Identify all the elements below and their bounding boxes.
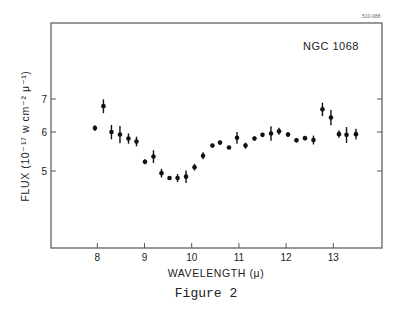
point-marker — [143, 160, 148, 165]
data-point — [252, 136, 257, 141]
data-point — [294, 138, 299, 143]
point-marker — [93, 126, 98, 131]
spectrum-figure: 510-088 8910111213 567 NGC 1068 FLUX (10… — [0, 0, 404, 311]
data-point — [277, 128, 282, 135]
data-point — [303, 136, 308, 141]
point-marker — [243, 143, 248, 148]
x-tick-label: 10 — [186, 252, 198, 263]
x-tick-label: 11 — [234, 252, 245, 263]
data-point — [126, 133, 131, 143]
data-point — [143, 159, 148, 164]
data-point — [175, 174, 180, 182]
point-marker — [286, 132, 291, 137]
chart-title: NGC 1068 — [303, 40, 359, 52]
point-marker — [269, 131, 274, 136]
data-point — [243, 143, 248, 149]
data-point — [260, 133, 265, 138]
y-tick-label: 6 — [41, 127, 47, 138]
data-point — [354, 129, 359, 140]
point-marker — [210, 143, 215, 148]
data-point — [320, 103, 325, 116]
data-point — [167, 176, 172, 181]
x-tick-label: 8 — [95, 252, 101, 263]
point-marker — [303, 136, 308, 141]
data-point — [210, 143, 215, 148]
data-point — [184, 171, 189, 183]
data-point — [109, 125, 114, 139]
y-tick-label: 5 — [41, 166, 47, 177]
data-point — [201, 152, 206, 159]
point-marker — [329, 115, 334, 120]
plate-number: 510-088 — [362, 13, 381, 19]
x-axis-ticks: 8910111213 — [95, 243, 340, 263]
data-point — [269, 126, 274, 140]
point-marker — [277, 129, 282, 134]
point-marker — [252, 136, 257, 141]
point-marker — [294, 138, 299, 143]
point-marker — [118, 132, 123, 137]
data-point — [134, 137, 139, 147]
data-point — [218, 140, 223, 145]
point-marker — [235, 135, 240, 140]
data-point — [311, 136, 316, 145]
x-tick-label: 12 — [281, 252, 293, 263]
point-marker — [175, 176, 180, 181]
data-point — [101, 99, 106, 113]
figure-caption: Figure 2 — [175, 286, 237, 301]
plot-frame — [51, 23, 382, 248]
data-point — [286, 132, 291, 137]
point-marker — [201, 153, 206, 158]
x-tick-label: 9 — [142, 252, 148, 263]
y-axis-ticks: 567 — [41, 94, 382, 177]
data-point — [118, 126, 123, 143]
data-point — [344, 127, 349, 143]
point-marker — [218, 140, 223, 145]
y-tick-label: 7 — [41, 94, 47, 105]
data-point — [337, 131, 342, 138]
point-marker — [354, 132, 359, 137]
point-marker — [167, 176, 172, 181]
point-marker — [101, 104, 106, 109]
point-marker — [260, 133, 265, 138]
point-marker — [344, 133, 349, 138]
x-axis-label: WAVELENGTH (μ) — [168, 267, 265, 279]
data-point — [93, 125, 98, 131]
point-marker — [159, 171, 164, 176]
point-marker — [126, 136, 131, 141]
point-marker — [184, 174, 189, 179]
point-marker — [192, 165, 197, 170]
x-tick-label: 13 — [328, 252, 340, 263]
data-point — [159, 169, 164, 178]
data-series — [93, 99, 359, 183]
point-marker — [311, 138, 316, 143]
data-point — [192, 164, 197, 171]
data-point — [329, 110, 334, 125]
data-point — [227, 145, 232, 150]
data-point — [151, 150, 156, 163]
point-marker — [151, 154, 156, 159]
data-point — [235, 132, 240, 144]
point-marker — [320, 107, 325, 112]
point-marker — [227, 145, 232, 150]
y-axis-label: FLUX (10⁻¹⁷ w cm⁻² μ⁻¹) — [19, 71, 31, 202]
point-marker — [109, 130, 114, 135]
point-marker — [337, 132, 342, 137]
point-marker — [134, 139, 139, 144]
